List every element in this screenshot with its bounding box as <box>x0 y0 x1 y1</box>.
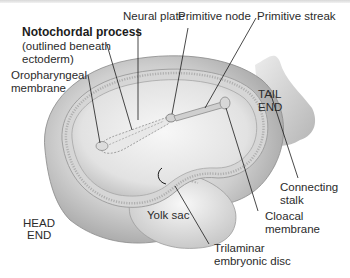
label-notochordal-note-2: ectoderm) <box>22 53 74 66</box>
label-cloacal-2: membrane <box>265 223 320 236</box>
label-yolk-sac: Yolk sac <box>147 209 189 222</box>
label-connecting-1: Connecting <box>280 181 338 194</box>
label-neural-plate: Neural plate <box>123 10 185 23</box>
label-connecting-2: stalk <box>280 194 304 207</box>
label-primitive-streak: Primitive streak <box>257 10 336 23</box>
label-head-2: END <box>27 229 51 242</box>
label-trilaminar-1: Trilaminar <box>214 242 265 255</box>
label-oropharyngeal-1: Oropharyngeal <box>11 69 87 82</box>
oropharyngeal-membrane-shape <box>96 142 108 151</box>
label-trilaminar-2: embryonic disc <box>214 255 291 268</box>
label-head-1: HEAD <box>23 217 55 230</box>
label-notochordal-process: Notochordal process <box>22 26 142 39</box>
cloacal-membrane-shape <box>220 97 230 109</box>
label-tail-1: TAIL <box>258 88 281 101</box>
label-oropharyngeal-2: membrane <box>11 82 66 95</box>
label-primitive-node: Primitive node <box>178 10 251 23</box>
label-cloacal-1: Cloacal <box>265 210 303 223</box>
label-tail-2: END <box>258 101 282 114</box>
label-notochordal-note-1: (outlined beneath <box>22 40 111 53</box>
